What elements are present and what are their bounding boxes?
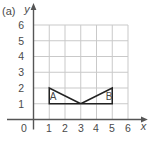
- x-tick-label-2: 2: [59, 122, 71, 134]
- coordinate-grid-figure: (a) y x 0 1 2 3 4 5 6 1 2 3 4 5 6 A B: [0, 0, 161, 144]
- x-tick-label-1: 1: [43, 122, 55, 134]
- figure-label: (a): [2, 5, 15, 18]
- x-axis-label: x: [137, 120, 150, 132]
- x-tick-label-4: 4: [90, 122, 102, 134]
- y-tick-label-6: 6: [4, 19, 24, 31]
- y-axis-label: y: [21, 3, 33, 15]
- x-tick-label-3: 3: [75, 122, 87, 134]
- y-tick-label-4: 4: [4, 50, 24, 62]
- triangle-a-label: A: [47, 91, 59, 103]
- y-tick-label-5: 5: [4, 35, 24, 47]
- y-tick-label-1: 1: [4, 98, 24, 110]
- x-tick-label-6: 6: [122, 122, 134, 134]
- triangle-b-label: B: [103, 91, 115, 103]
- y-tick-label-2: 2: [4, 82, 24, 94]
- y-tick-label-3: 3: [4, 66, 24, 78]
- x-tick-label-5: 5: [106, 122, 118, 134]
- x-tick-label-0: 0: [18, 122, 30, 134]
